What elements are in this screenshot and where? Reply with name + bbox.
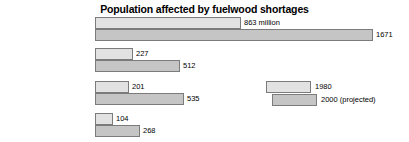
- legend-swatch-1980: [266, 81, 311, 93]
- bar-value-asia-and-the-pacific-2000: 1671: [376, 29, 393, 41]
- chart-title: Population affected by fuelwood shortage…: [0, 3, 409, 15]
- bar-central-and-southern-africa-2000: [95, 93, 184, 105]
- bar-value-asia-and-the-pacific-1980: 863 million: [244, 17, 280, 29]
- bar-value-middle-east-north-africa-2000: 268: [143, 125, 156, 137]
- bar-middle-east-north-africa-2000: [95, 125, 140, 137]
- bar-asia-and-the-pacific-1980: [95, 17, 241, 29]
- bar-value-central-and-southern-africa-1980: 201: [132, 81, 145, 93]
- bar-value-latin-america-1980: 227: [136, 48, 149, 60]
- legend-swatch-2000: [272, 94, 317, 106]
- bar-latin-america-2000: [95, 60, 180, 72]
- bar-central-and-southern-africa-1980: [95, 81, 129, 93]
- fuelwood-shortages-bar-chart: Population affected by fuelwood shortage…: [0, 0, 409, 142]
- legend-label-2000: 2000 (projected): [321, 94, 376, 106]
- legend-label-1980: 1980: [315, 81, 332, 93]
- bar-middle-east-north-africa-1980: [95, 113, 113, 125]
- bar-value-latin-america-2000: 512: [183, 60, 196, 72]
- bar-value-middle-east-north-africa-1980: 104: [116, 113, 129, 125]
- bar-asia-and-the-pacific-2000: [95, 29, 373, 41]
- bar-latin-america-1980: [95, 48, 133, 60]
- bar-value-central-and-southern-africa-2000: 535: [187, 93, 200, 105]
